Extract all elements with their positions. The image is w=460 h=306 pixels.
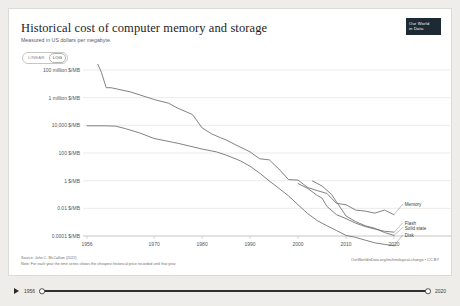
chart-footer-notes: Source: John C. McCallum (2022) Note: Fo… xyxy=(21,256,176,267)
x-tick-label: 2010 xyxy=(340,241,351,247)
timeline-slider[interactable]: 1956 2020 xyxy=(14,284,446,298)
x-tick-label: 1980 xyxy=(197,241,208,247)
chart-card: Historical cost of computer memory and s… xyxy=(8,8,452,276)
x-tick-label: 1990 xyxy=(245,241,256,247)
scale-option-log[interactable]: LOG xyxy=(49,53,67,63)
timeline-handle-end[interactable] xyxy=(425,288,431,294)
series-line-flash[interactable] xyxy=(298,184,394,233)
timeline-track-wrap[interactable] xyxy=(39,286,431,296)
series-label-solid-state[interactable]: Solid state xyxy=(405,225,426,230)
chart-subtitle: Measured in US dollars per megabyte. xyxy=(21,37,111,43)
page-title: Historical cost of computer memory and s… xyxy=(21,21,267,36)
series-line-memory[interactable] xyxy=(87,64,394,215)
series-label-memory[interactable]: Memory xyxy=(405,202,422,207)
x-tick-label: 2020 xyxy=(388,241,399,247)
note-text: Note: For each year the time series show… xyxy=(21,262,176,267)
chart-svg xyxy=(9,64,453,260)
scale-option-linear[interactable]: LINEAR xyxy=(24,53,49,63)
y-tick-label: 1 $/MB xyxy=(9,178,80,184)
chart-page: Historical cost of computer memory and s… xyxy=(0,0,460,306)
x-tick-label: 1970 xyxy=(149,241,160,247)
chart-plot-area: 100 million $/MB1 million $/MB10,000 $/M… xyxy=(9,64,453,260)
x-tick-label: 1956 xyxy=(81,241,92,247)
y-tick-label: 100 $/MB xyxy=(9,150,80,156)
y-tick-label: 1 million $/MB xyxy=(9,95,80,101)
play-icon[interactable] xyxy=(14,288,19,294)
y-tick-label: 0.0001 $/MB xyxy=(9,233,80,239)
scale-toggle[interactable]: LINEAR LOG xyxy=(22,52,68,64)
timeline-handle-start[interactable] xyxy=(39,288,45,294)
timeline-track[interactable] xyxy=(43,290,427,292)
owid-logo-line2: in Data xyxy=(409,26,439,31)
owid-logo[interactable]: Our World in Data xyxy=(406,18,441,35)
attribution-text[interactable]: OurWorldInData.org/technological-change … xyxy=(351,257,439,262)
series-label-disk[interactable]: Disk xyxy=(405,232,414,237)
y-tick-label: 100 million $/MB xyxy=(9,67,80,73)
series-line-disk[interactable] xyxy=(87,126,394,246)
timeline-start-year: 1956 xyxy=(24,288,35,294)
y-tick-label: 0.01 $/MB xyxy=(9,205,80,211)
timeline-end-year: 2020 xyxy=(435,288,446,294)
y-tick-label: 10,000 $/MB xyxy=(9,122,80,128)
x-tick-label: 2000 xyxy=(293,241,304,247)
